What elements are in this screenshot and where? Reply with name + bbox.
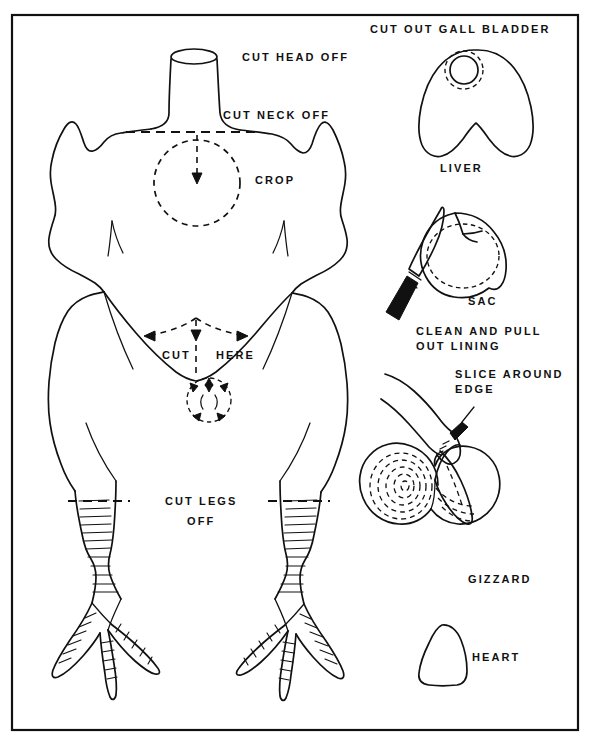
label-liver: LIVER: [440, 162, 483, 174]
hand-knuckle-1: [443, 441, 449, 444]
label-out-lining: OUT LINING: [416, 340, 501, 352]
hand-knuckle-2: [440, 446, 446, 449]
label-slice-around: SLICE AROUND: [455, 368, 564, 380]
carcass-body-outline: [48, 122, 151, 491]
vent-slit-2: [215, 395, 217, 409]
label-gizzard: GIZZARD: [468, 573, 532, 585]
gall-bladder-outline: [450, 56, 478, 84]
label-off: OFF: [187, 515, 215, 527]
neck-left-side: [151, 59, 171, 129]
left-drumstick-crease: [86, 423, 116, 481]
right-wing-crease: [273, 221, 284, 253]
left-foot-hock-2: [108, 599, 121, 630]
gizzard-panel: SLICE AROUND EDGE: [360, 368, 564, 585]
right-thigh-inner-line: [263, 293, 292, 369]
right-wing-crease-2: [284, 221, 288, 256]
label-cut-out-gall-bladder: CUT OUT GALL BLADDER: [370, 23, 551, 35]
label-cut-neck-off: CUT NECK OFF: [223, 109, 330, 121]
cut-here-right-arrow-head: [237, 331, 248, 341]
cut-here-left-arrow-head: [144, 331, 155, 341]
heart-outline: [419, 625, 467, 686]
knife-handle: [386, 276, 418, 320]
label-cut-head-off: CUT HEAD OFF: [242, 51, 349, 63]
liver-panel: CUT OUT GALL BLADDER LIVER: [370, 23, 551, 174]
crop-arrow-head: [192, 173, 202, 184]
right-shank-outline-inner: [275, 481, 288, 599]
left-wing-crease-2: [108, 221, 112, 256]
label-cut-legs: CUT LEGS: [165, 495, 237, 507]
vent-slit: [201, 395, 203, 409]
knife-blade: [409, 207, 444, 276]
vent-arrow-left: [190, 383, 198, 392]
label-here: HERE: [216, 349, 255, 361]
chicken-carcass-panel: CUT HEAD OFF CUT NECK OFF CROP CUT HERE …: [48, 49, 349, 700]
sac-outline: [421, 213, 507, 298]
left-wing-crease: [112, 221, 123, 253]
hand-outline: [385, 374, 452, 432]
left-foot-middle-toe: [100, 630, 116, 699]
label-edge: EDGE: [455, 383, 495, 395]
gizzard-flap-fold: [447, 466, 462, 505]
sac-top-flap: [455, 213, 482, 234]
gizzard-rings: [370, 453, 432, 519]
liver-outline: [419, 50, 533, 157]
vent-arrow-right: [220, 383, 228, 392]
right-drumstick-crease: [280, 423, 310, 481]
sac-top-flap-2: [463, 234, 477, 242]
label-cut: CUT: [162, 349, 191, 361]
gizzard-right-outline: [431, 446, 500, 524]
left-shank-outline: [75, 491, 96, 603]
right-foot-hock-2: [275, 599, 288, 631]
vent-arrow-up-inner: [205, 384, 213, 392]
left-thigh-inner-line: [104, 292, 133, 369]
cut-here-right-arrow-line: [196, 318, 240, 335]
cut-here-left-arrow-line: [152, 318, 196, 335]
poultry-dressing-diagram: CUT HEAD OFF CUT NECK OFF CROP CUT HERE …: [0, 0, 589, 747]
sac-panel: SAC CLEAN AND PULL OUT LINING: [386, 207, 542, 352]
gizzard-knife-tip: [462, 407, 474, 422]
label-clean-and-pull: CLEAN AND PULL: [416, 325, 542, 337]
neck-outline: [171, 49, 217, 64]
figure-root: CUT HEAD OFF CUT NECK OFF CROP CUT HERE …: [0, 0, 589, 747]
vent-arrow-down-left: [193, 413, 201, 421]
gizzard-knife-blade: [450, 422, 468, 440]
cut-here-down-arrow-head: [191, 330, 201, 341]
heart-panel: HEART: [419, 625, 521, 686]
label-heart: HEART: [472, 651, 520, 663]
label-crop: CROP: [255, 174, 295, 186]
right-foot-middle-toe: [280, 631, 296, 700]
label-sac: SAC: [468, 295, 498, 307]
vent-arrow-down-right: [217, 413, 225, 421]
